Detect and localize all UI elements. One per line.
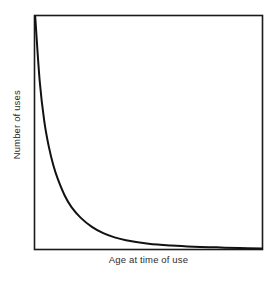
- plot-frame: [35, 16, 263, 250]
- chart-plot-area: [0, 0, 277, 283]
- chart-figure: Number of uses Age at time of use: [0, 0, 277, 283]
